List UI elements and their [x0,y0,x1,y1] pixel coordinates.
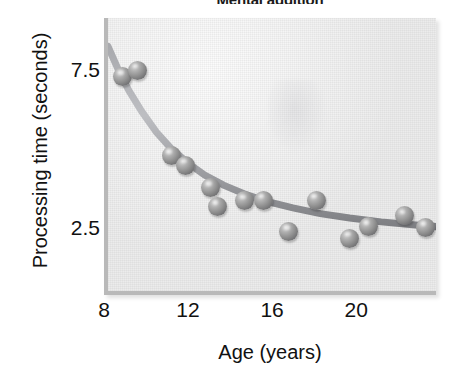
y-axis-title: Processing time (seconds) [29,1,52,301]
data-point [128,61,147,80]
y-tick-label: 7.5 [54,58,100,82]
data-point [176,156,195,175]
chart-title: Mental addition [104,0,436,4]
data-point [416,218,435,237]
y-tick-label: 2.5 [54,216,100,240]
data-point [359,217,378,236]
data-point [395,206,414,225]
x-axis-title: Age (years) [104,341,436,364]
x-tick-label: 8 [98,298,110,322]
fit-curve [108,18,436,295]
y-axis-ticks: 7.5 2.5 [50,0,100,378]
x-tick-label: 16 [260,298,283,322]
x-tick-label: 20 [344,298,367,322]
data-point [254,191,273,210]
data-point [208,197,227,216]
data-point [307,191,326,210]
chart-figure: Mental addition 7.5 2.5 8121620 Processi… [0,0,459,378]
x-tick-label: 12 [176,298,199,322]
plot-area [104,18,436,295]
data-point [340,229,359,248]
